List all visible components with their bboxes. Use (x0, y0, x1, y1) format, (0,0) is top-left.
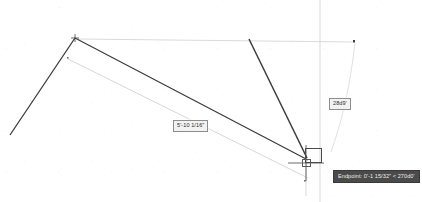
upper-reference-line (78, 39, 355, 42)
dimension-length-label[interactable]: 5'-10 1/16" (173, 120, 208, 132)
apex-node-marker (71, 34, 79, 42)
lower-reference-line (68, 59, 308, 178)
angle-arc-curve (331, 42, 355, 152)
dimension-angle-label[interactable]: 28d9' (329, 98, 351, 110)
selected-polyline[interactable] (10, 38, 308, 160)
top-right-node-marker (353, 40, 355, 42)
mid-node-marker (67, 57, 69, 59)
bottom-node-marker (304, 180, 306, 182)
right-leg-line[interactable] (249, 39, 307, 158)
osnap-endpoint-tooltip: Endpoint: 0'-1 15/32" < 270d0' (333, 170, 420, 183)
cad-drawing-canvas[interactable]: 5'-10 1/16" 28d9' Endpoint: 0'-1 15/32" … (0, 0, 422, 202)
endpoint-snap-marker (302, 159, 311, 167)
